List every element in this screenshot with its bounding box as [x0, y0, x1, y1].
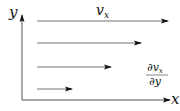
gradient-numerator-subscript: x	[159, 67, 163, 75]
shear-flow-diagram: y x vx ∂vx ∂y	[0, 0, 180, 111]
velocity-label-subscript: x	[104, 10, 109, 20]
y-axis-label: y	[8, 3, 18, 21]
gradient-denominator: ∂y	[149, 75, 162, 88]
svg-text:∂vx: ∂vx	[147, 61, 163, 75]
svg-text:vx: vx	[96, 2, 109, 20]
velocity-gradient-label: ∂vx ∂y	[146, 61, 168, 88]
velocity-label-base: v	[96, 2, 104, 18]
axes: y x	[8, 3, 180, 108]
velocity-label: vx	[96, 2, 109, 20]
x-axis-label: x	[171, 90, 180, 108]
